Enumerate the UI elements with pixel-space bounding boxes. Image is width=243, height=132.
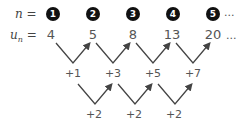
n-label: n = xyxy=(15,7,37,21)
first-difference-2: +3 xyxy=(101,67,125,80)
index-circle-4: 4 xyxy=(166,7,180,21)
term-value-2: 5 xyxy=(81,27,105,42)
un-ellipsis: ... xyxy=(226,29,237,42)
index-circle-5: 5 xyxy=(206,7,220,21)
term-value-3: 8 xyxy=(121,27,145,42)
second-difference-3: +2 xyxy=(162,108,186,121)
first-difference-4: +7 xyxy=(181,67,205,80)
index-circle-3: 3 xyxy=(126,7,140,21)
first-difference-1: +1 xyxy=(61,67,85,80)
second-difference-2: +2 xyxy=(122,108,146,121)
n-ellipsis: ... xyxy=(224,6,235,19)
index-circle-1: 1 xyxy=(46,7,60,21)
second-difference-1: +2 xyxy=(82,108,106,121)
first-difference-3: +5 xyxy=(141,67,165,80)
term-value-5: 20 xyxy=(201,27,225,42)
term-value-4: 13 xyxy=(160,27,184,42)
index-circle-2: 2 xyxy=(86,7,100,21)
un-label: un = xyxy=(10,28,37,44)
term-value-1: 4 xyxy=(39,27,63,42)
